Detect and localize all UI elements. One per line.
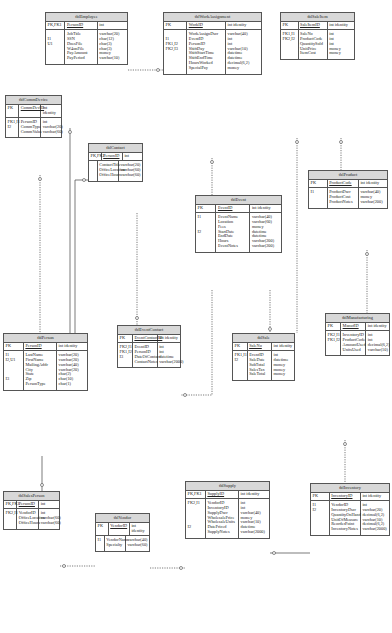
pk-field-name: ProductCode	[328, 180, 359, 187]
table-tblSaleItem[interactable]: tblSaleItemPKSaleItemIDint identityFK1,I…	[280, 12, 355, 60]
field-name-column: VendorIDInventoryDscrQuantityOnHandUnitO…	[330, 501, 361, 535]
pk-field-name: SaleItemID	[299, 22, 328, 29]
field-type-column: varchar(20)char(12)char(3)char(3)moneyva…	[98, 30, 127, 64]
field-name-column: VendorIDOfficeLocationOfficeHours	[17, 509, 39, 529]
field-name: Specialty	[106, 543, 123, 548]
key-indicator: FK2,I1	[6, 511, 15, 516]
primary-key-row: PKEventIDint identity	[196, 205, 281, 213]
primary-key-row: PK,FK1SupplyIDint identity	[186, 491, 269, 499]
primary-key-row: PKSaleItemIDint identity	[281, 22, 354, 30]
field-name: SupplyNotes	[207, 530, 236, 535]
field-type: varchar(2000)	[241, 530, 268, 535]
key-indicator: FK1,I2	[328, 338, 339, 343]
pk-field-type: int identity	[239, 491, 269, 498]
crowfoot-optional-icon	[296, 141, 299, 144]
pk-label: PK	[196, 205, 216, 212]
field-type-column: intvarchar(60)varchar(60)	[39, 509, 62, 529]
field-list: I1 VendorNameSpecialtyvarchar(40)varchar…	[96, 536, 149, 551]
field-name-column: PersonIDCommTypeCommValue	[19, 118, 41, 138]
crowfoot-optional-icon	[340, 141, 343, 144]
field-type-column: intintdecimal(6,2)varchar(10)	[366, 331, 391, 356]
table-title: tblInventory	[311, 484, 389, 493]
table-tblCommDevice[interactable]: tblCommDevicePKCommDevIDint identityFK1,…	[5, 95, 62, 138]
field-list: I1U1 JobTitleSSNDoesFileW4onFilePayAmoun…	[46, 30, 127, 64]
field-name: ItemCost	[300, 51, 325, 56]
pk-label: PK	[233, 343, 248, 350]
table-title: tblManufacturing	[326, 314, 389, 323]
table-tblEventContact[interactable]: tblEventContactPKEventContactIDint ident…	[117, 325, 181, 368]
field-list: ContactTitleOfficeLocationOfficeHoursvar…	[89, 161, 142, 181]
primary-key-row: PKProductCodeint identity	[309, 180, 387, 188]
crowfoot-optional-icon	[157, 69, 160, 72]
field-type: varchar(10)	[99, 56, 125, 61]
field-name: PersonType	[25, 382, 54, 387]
field-name: ContactNotes	[134, 360, 155, 365]
table-tblEmployee[interactable]: tblEmployeePK,FK1PersonIDint I1U1 JobTit…	[45, 12, 128, 65]
primary-key-row: PKSaleNoint identity	[233, 343, 294, 351]
field-name: EventNotes	[218, 244, 248, 249]
key-indicator-column: FK1,I1I2	[233, 351, 248, 381]
key-indicator	[313, 527, 328, 532]
key-indicator-column: I1FK1,I2FK2,I3	[164, 30, 187, 74]
pk-field-name: InventoryID	[330, 493, 361, 500]
table-title: tblCommDevice	[6, 96, 61, 105]
pk-field-name: PersonID	[24, 343, 57, 350]
crowfoot-optional-icon	[366, 253, 369, 256]
pk-field-type: int identity	[361, 493, 389, 500]
field-name-column: EventIDPersonIDDateOfContactContactNotes	[133, 343, 158, 368]
table-tblManufacturing[interactable]: tblManufacturingPKManufIDint identityFK2…	[325, 313, 390, 356]
pk-field-type: int	[98, 22, 127, 29]
field-type-column: intdatetimemoneymoneymoney	[272, 351, 294, 381]
table-tblSupply[interactable]: tblSupplyPK,FK1SupplyIDint identityFK2,I…	[185, 481, 270, 539]
field-name-column: JobTitleSSNDoesFileW4onFilePayAmountPayP…	[65, 30, 97, 64]
primary-key-row: PKEventContactIDint identity	[118, 335, 180, 343]
table-tblEvent[interactable]: tblEventPKEventIDint identityI1 I2 Event…	[195, 195, 282, 253]
table-title: tblPerson	[4, 334, 87, 343]
key-indicator-column: I1	[309, 188, 328, 208]
field-name: SpecialPay	[189, 66, 224, 71]
key-indicator	[6, 521, 15, 526]
field-list: I1 ProductDscrProductCostProductNotesvar…	[309, 188, 387, 208]
table-tblProduct[interactable]: tblProductPKProductCodeint identityI1 Pr…	[308, 170, 388, 209]
field-type: varchar(2000)	[159, 360, 183, 365]
table-tblSale[interactable]: tblSalePKSaleNoint identityFK1,I1I2 Even…	[232, 333, 295, 381]
table-title: tblSupply	[186, 482, 269, 491]
field-list: I1FK1,I2FK2,I3 WorkAssignDscrEventIDPers…	[164, 30, 261, 74]
table-title: tblWorkAssignment	[164, 13, 261, 22]
field-type-column: varchar(20)varchar(60)varchar(60)	[119, 161, 142, 181]
field-type-column: intintintmoneymoney	[328, 30, 354, 60]
pk-label: PK,FK1	[89, 153, 102, 160]
pk-field-type: int identity	[359, 180, 387, 187]
field-type-column: varchar(40)varchar(60)moneydatetimedatet…	[250, 213, 281, 252]
table-tblSalesPerson[interactable]: tblSalesPersonPK,FK1PersonIDintFK2,I1 Ve…	[3, 491, 60, 530]
table-tblContact[interactable]: tblContactPK,FK1PersonIDint ContactTitle…	[88, 143, 143, 182]
pk-field-name: SaleNo	[248, 343, 272, 350]
table-tblPerson[interactable]: tblPersonPKPersonIDint identityI1I2,U1 I…	[3, 333, 88, 391]
pk-label: PK,FK1	[186, 491, 206, 498]
primary-key-row: PKPersonIDint identity	[4, 343, 87, 351]
primary-key-row: PK,FK1PersonIDint	[4, 501, 59, 509]
pk-label: PK	[96, 523, 109, 535]
pk-field-type: int identity	[272, 343, 294, 350]
table-tblVendor[interactable]: tblVendorPKVendorIDint identityI1 Vendor…	[95, 513, 150, 552]
field-type-column: intvarchar(20)varchar(60)	[41, 118, 64, 138]
pk-field-type: int identity	[57, 343, 87, 350]
field-type: money	[228, 66, 260, 71]
pk-field-type: int identity	[250, 205, 281, 212]
pk-label: PK,FK1	[46, 22, 65, 29]
pk-label: PK	[281, 22, 299, 29]
primary-key-row: PKVendorIDint identity	[96, 523, 149, 536]
table-title: tblVendor	[96, 514, 149, 523]
field-list: FK2,I1 I2 VendorIDInventoryIDSupplyDscrW…	[186, 499, 269, 538]
table-title: tblEmployee	[46, 13, 127, 22]
table-tblInventory[interactable]: tblInventoryPKInventoryIDint identityI1I…	[310, 483, 390, 536]
field-name-column: EventNameLocationFeesStartDateEndDateHou…	[216, 213, 250, 252]
field-list: FK1,I1I2 EventIDSaleDateSubTotalSalesTax…	[233, 351, 294, 381]
field-name-column: ProductDscrProductCostProductNotes	[328, 188, 359, 208]
crowfoot-optional-icon	[136, 317, 139, 320]
pk-field-name: CommDevID	[19, 105, 41, 117]
field-type: varchar(60)	[127, 543, 147, 548]
table-tblWorkAssignment[interactable]: tblWorkAssignmentPKWorkIDint identity I1…	[163, 12, 262, 75]
primary-key-row: PKManufIDint identity	[326, 323, 389, 331]
key-indicator-column: I1	[96, 536, 105, 551]
